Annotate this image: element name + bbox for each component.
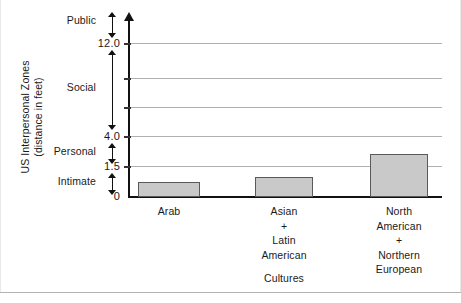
gridline-9-5 — [130, 78, 442, 79]
arrow-shaft — [112, 16, 113, 34]
bar-north-american-northern-european — [370, 154, 428, 197]
y-tick-mark-9-5 — [124, 78, 131, 80]
x-category-label-north-american-northern-european: North American + Northern European — [359, 204, 439, 277]
bar-arab — [138, 182, 200, 197]
bar-asian-latin-american — [255, 177, 313, 197]
zone-label-public: Public — [22, 14, 96, 26]
gridline-6-8 — [130, 107, 442, 108]
category-line: Asian — [244, 204, 324, 219]
y-tick-mark-12 — [124, 43, 131, 45]
zone-label-social: Social — [22, 81, 96, 93]
y-tick-label-4: 4.0 — [86, 130, 120, 142]
figure-border-left — [0, 0, 1, 293]
gridline-4 — [130, 136, 442, 137]
y-tick-label-12: 12.0 — [86, 37, 120, 49]
category-line: European — [359, 262, 439, 277]
category-line: American — [244, 248, 324, 263]
category-line: American — [359, 219, 439, 234]
category-line: + — [359, 233, 439, 248]
y-tick-label-1-5: 1.5 — [86, 160, 120, 172]
x-axis-title: Cultures — [244, 272, 324, 284]
y-tick-label-0: 0 — [86, 190, 120, 202]
figure-border-bottom — [0, 292, 461, 293]
y-tick-mark-6-8 — [124, 107, 131, 109]
x-category-label-asian-latin-american: Asian + Latin American — [244, 204, 324, 262]
interpersonal-zones-bar-chart: US Interpersonal Zones (distance in feet… — [0, 0, 461, 303]
category-line: + — [244, 219, 324, 234]
y-tick-mark-1-5 — [124, 166, 131, 168]
arrow-shaft — [112, 54, 113, 126]
zone-label-intimate: Intimate — [22, 175, 96, 187]
category-line: North — [359, 204, 439, 219]
arrow-shaft — [112, 177, 113, 191]
zone-label-personal: Personal — [22, 145, 96, 157]
gridline-12 — [130, 43, 442, 44]
category-line: Arab — [129, 204, 209, 219]
category-line: Northern — [359, 248, 439, 263]
category-line: Latin — [244, 233, 324, 248]
zone-span-arrow-social — [106, 50, 119, 130]
zone-span-arrow-public — [106, 12, 119, 38]
y-axis-line — [128, 20, 130, 198]
x-category-label-arab: Arab — [129, 204, 209, 219]
y-tick-mark-4 — [124, 136, 131, 138]
